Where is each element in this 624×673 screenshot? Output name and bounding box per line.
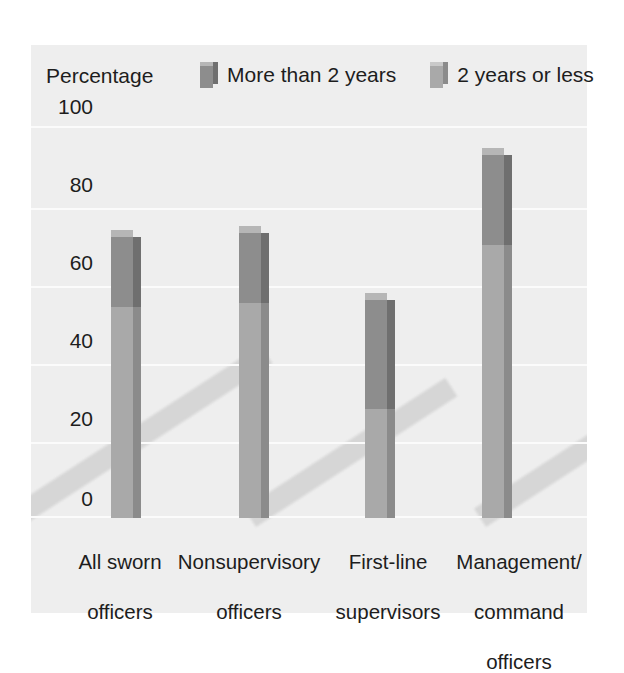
bar-nonsupervisory-officers[interactable] xyxy=(239,233,269,518)
bar-top-face xyxy=(365,293,387,300)
x-category-line: Management/ xyxy=(443,549,595,574)
bar-segment-side xyxy=(504,245,512,518)
y-tick-label-100: 100 xyxy=(33,96,93,117)
legend-item-2-years-or-less: 2 years or less xyxy=(430,62,594,88)
bar-top-face xyxy=(239,226,261,233)
bar-segment-2-years-or-less xyxy=(482,245,504,518)
bar-top-face xyxy=(482,148,504,155)
x-category-line: command xyxy=(443,599,595,624)
x-category-line: officers xyxy=(443,649,595,673)
x-category-label-first-line-supervisors: First-line supervisors xyxy=(318,524,458,649)
bar-segment-side xyxy=(133,237,141,307)
bar-segment-side xyxy=(387,300,395,409)
bar-segment-more-than-2-years xyxy=(111,237,133,307)
bar-segment-side xyxy=(504,155,512,245)
legend-label: More than 2 years xyxy=(227,63,396,87)
gridline-100 xyxy=(31,126,587,128)
bar-segment-side xyxy=(261,233,269,303)
legend-swatch-icon xyxy=(430,62,448,88)
legend-item-more-than-2-years: More than 2 years xyxy=(200,62,396,88)
bar-all-sworn-officers[interactable] xyxy=(111,237,141,518)
bar-segment-more-than-2-years xyxy=(239,233,261,303)
x-category-label-management-command-officers: Management/ command officers xyxy=(443,524,595,673)
legend-swatch-icon xyxy=(200,62,218,88)
legend-label: 2 years or less xyxy=(457,63,594,87)
x-category-line: officers xyxy=(166,599,332,624)
bar-top-face xyxy=(111,230,133,237)
bar-segment-2-years-or-less xyxy=(365,409,387,518)
bar-segment-more-than-2-years xyxy=(482,155,504,245)
bar-segment-2-years-or-less xyxy=(239,303,261,518)
plot-area xyxy=(31,118,587,518)
bar-segment-2-years-or-less xyxy=(111,307,133,518)
x-category-line: supervisors xyxy=(318,599,458,624)
x-category-line: Nonsupervisory xyxy=(166,549,332,574)
x-category-label-nonsupervisory-officers: Nonsupervisory officers xyxy=(166,524,332,649)
x-category-line: First-line xyxy=(318,549,458,574)
bar-segment-side xyxy=(387,409,395,518)
bar-segment-more-than-2-years xyxy=(365,300,387,409)
bar-first-line-supervisors[interactable] xyxy=(365,300,395,518)
bar-management-command-officers[interactable] xyxy=(482,155,512,518)
bar-segment-side xyxy=(133,307,141,518)
chart-legend: More than 2 years 2 years or less xyxy=(200,60,618,90)
bar-segment-side xyxy=(261,303,269,518)
